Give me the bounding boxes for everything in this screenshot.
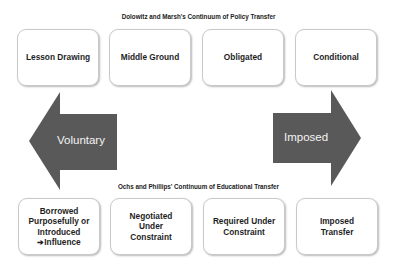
bottom-continuum-title: Ochs and Phillips' Continuum of Educatio… <box>0 183 397 190</box>
box-line: Transfer <box>320 227 354 238</box>
box-line: Purposefully or <box>29 216 90 227</box>
box-negotiated-under-constraint: Negotiated Under Constraint <box>110 198 192 255</box>
imposed-arrow-label: Imposed <box>284 131 328 143</box>
box-line: Borrowed <box>29 206 90 217</box>
box-line: Constraint <box>213 227 275 238</box>
box-required-under-constraint: Required Under Constraint <box>203 198 285 255</box>
voluntary-arrow-label: Voluntary <box>57 134 105 146</box>
box-imposed-transfer: Imposed Transfer <box>296 198 378 255</box>
box-line: Imposed <box>320 216 354 227</box>
box-line: Required Under <box>213 216 275 227</box>
box-line: Negotiated <box>130 211 173 222</box>
box-line: Influence <box>44 237 80 247</box>
box-borrowed-purposefully: Borrowed Purposefully or Introduced ➔Inf… <box>18 198 100 255</box>
box-line: Under <box>130 221 173 232</box>
box-line: Constraint <box>130 232 173 243</box>
box-line: Introduced <box>29 227 90 238</box>
